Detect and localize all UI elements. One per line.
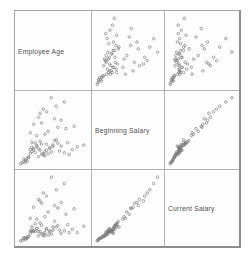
- variable-label-employee-age: Employee Age: [18, 47, 64, 54]
- splom-cell-current-salary-beginning-salary: [92, 170, 165, 246]
- scatter-panel-age-vs-current-salary: [165, 11, 239, 90]
- splom-cell-current-salary-current-salary: Current Salary: [165, 170, 239, 246]
- splom-cell-age-beginning-salary: [92, 11, 165, 91]
- scatterplot-matrix: Employee Age Beginning Salary Current Sa…: [14, 10, 241, 248]
- splom-cell-beginning-salary-beginning-salary: Beginning Salary: [92, 91, 165, 170]
- splom-cell-beginning-salary-age: [15, 91, 92, 170]
- scatter-panel-beginning-salary-vs-age: [15, 91, 91, 169]
- scatterplot-matrix-screenshot: Employee Age Beginning Salary Current Sa…: [0, 0, 252, 261]
- splom-cell-beginning-salary-current-salary: [165, 91, 239, 170]
- variable-label-beginning-salary: Beginning Salary: [95, 127, 150, 134]
- splom-cell-age-current-salary: [165, 11, 239, 91]
- scatter-panel-current-salary-vs-beginning-salary: [92, 170, 164, 246]
- splom-cell-age-age: Employee Age: [15, 11, 92, 91]
- variable-label-current-salary: Current Salary: [168, 205, 215, 212]
- scatter-panel-current-salary-vs-age: [15, 170, 91, 246]
- scatter-panel-age-vs-beginning-salary: [92, 11, 164, 90]
- scatter-panel-beginning-salary-vs-current-salary: [165, 91, 239, 169]
- splom-cell-current-salary-age: [15, 170, 92, 246]
